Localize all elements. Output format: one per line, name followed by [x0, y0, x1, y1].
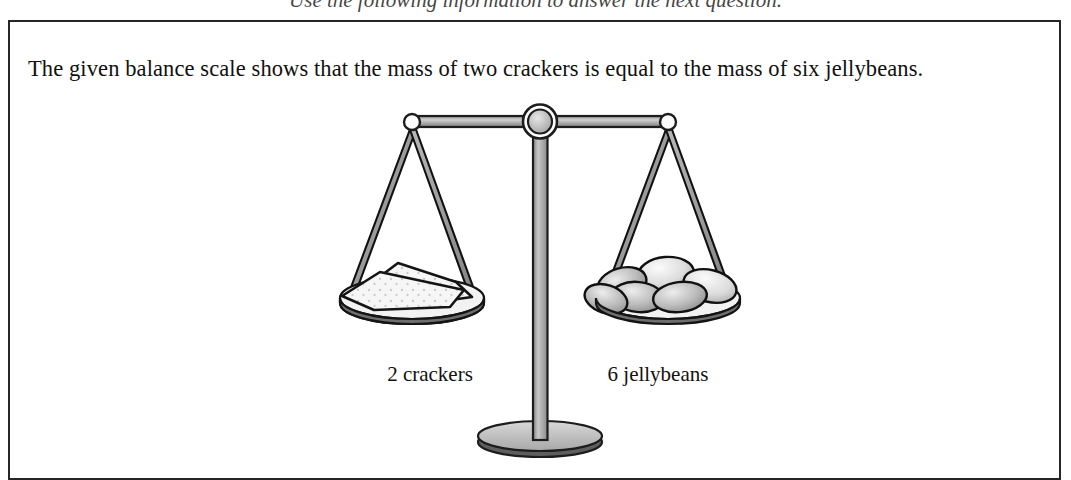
scale-post — [533, 130, 548, 440]
balance-scale-illustration — [322, 100, 762, 470]
right-pan-caption: 6 jellybeans — [538, 362, 778, 386]
pivot-hub-icon — [523, 105, 557, 139]
right-hanger-knob — [660, 114, 676, 130]
left-hanger-knob — [404, 114, 420, 130]
prompt-text: The given balance scale shows that the m… — [28, 54, 1038, 84]
left-pan-caption: 2 crackers — [310, 362, 550, 386]
instruction-line: Use the following information to answer … — [0, 0, 1071, 13]
question-box: The given balance scale shows that the m… — [8, 20, 1061, 480]
balance-scale-figure: 2 crackers 6 jellybeans — [10, 100, 1063, 470]
